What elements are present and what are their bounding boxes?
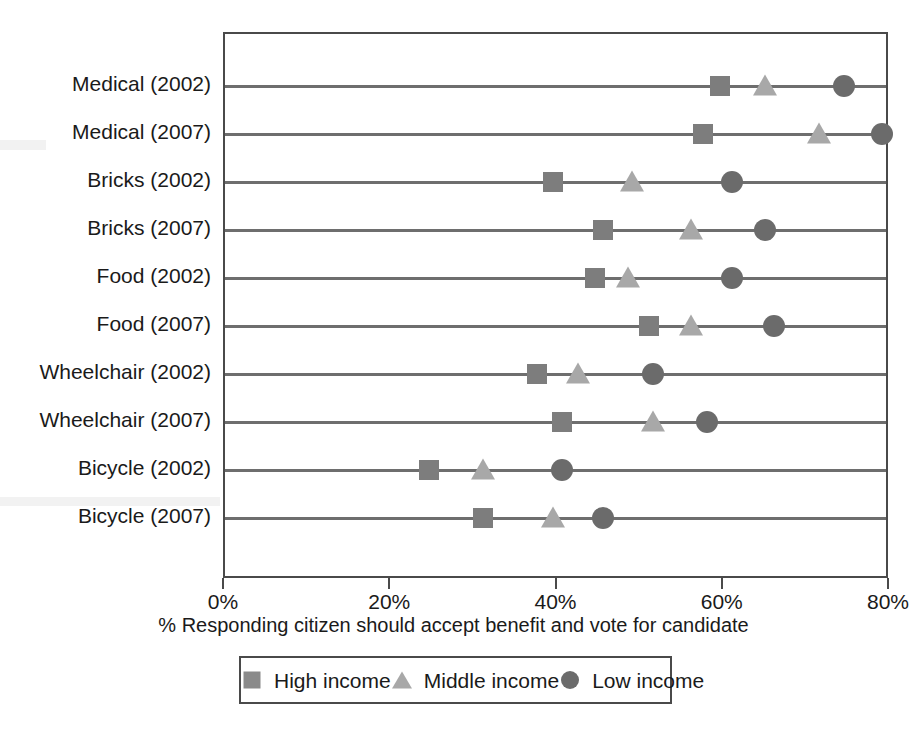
x-axis: 0%20%40%60%80% bbox=[223, 578, 888, 590]
x-axis-tick-label: 80% bbox=[867, 591, 909, 612]
data-point-triangle bbox=[541, 506, 565, 527]
x-axis-title: % Responding citizen should accept benef… bbox=[0, 614, 907, 636]
data-point-square bbox=[639, 316, 659, 336]
x-axis-tick-label: 40% bbox=[534, 591, 576, 612]
data-point-square bbox=[585, 268, 605, 288]
y-axis-label: Bricks (2007) bbox=[87, 217, 211, 238]
circle-marker-icon bbox=[559, 669, 581, 691]
data-point-triangle bbox=[807, 122, 831, 143]
row-baseline bbox=[225, 277, 886, 280]
y-axis-label: Wheelchair (2007) bbox=[39, 409, 211, 430]
data-point-circle bbox=[754, 219, 776, 241]
x-axis-tick bbox=[887, 578, 889, 589]
data-point-square bbox=[419, 460, 439, 480]
chart-legend: High incomeMiddle incomeLow income bbox=[239, 656, 672, 704]
legend-label: High income bbox=[274, 670, 391, 691]
x-axis-tick-label: 60% bbox=[701, 591, 743, 612]
data-point-triangle bbox=[616, 266, 640, 287]
row-baseline bbox=[225, 325, 886, 328]
x-axis-tick bbox=[721, 578, 723, 589]
legend-label: Middle income bbox=[424, 670, 559, 691]
y-axis-label: Medical (2002) bbox=[72, 73, 211, 94]
x-axis-tick bbox=[388, 578, 390, 589]
y-axis-label: Food (2002) bbox=[97, 265, 211, 286]
legend-label: Low income bbox=[592, 670, 704, 691]
data-point-triangle bbox=[566, 362, 590, 383]
data-point-square bbox=[593, 220, 613, 240]
x-axis-tick-label: 0% bbox=[208, 591, 238, 612]
y-axis-label: Bricks (2002) bbox=[87, 169, 211, 190]
data-point-circle bbox=[871, 123, 893, 145]
data-point-square bbox=[693, 124, 713, 144]
y-axis-label: Bicycle (2007) bbox=[78, 505, 211, 526]
row-baseline bbox=[225, 85, 886, 88]
data-point-triangle bbox=[641, 410, 665, 431]
data-point-triangle bbox=[471, 458, 495, 479]
data-point-circle bbox=[763, 315, 785, 337]
triangle-marker-icon bbox=[391, 669, 413, 691]
data-point-square bbox=[552, 412, 572, 432]
y-axis-label: Bicycle (2002) bbox=[78, 457, 211, 478]
square-marker-icon bbox=[241, 669, 263, 691]
data-point-triangle bbox=[620, 170, 644, 191]
data-point-triangle bbox=[679, 218, 703, 239]
legend-item[interactable]: Middle income bbox=[391, 669, 559, 691]
data-point-triangle bbox=[679, 314, 703, 335]
row-baseline bbox=[225, 133, 886, 136]
data-point-square bbox=[527, 364, 547, 384]
x-axis-tick bbox=[555, 578, 557, 589]
data-point-circle bbox=[642, 363, 664, 385]
data-point-circle bbox=[721, 267, 743, 289]
data-point-triangle bbox=[753, 74, 777, 95]
data-point-square bbox=[473, 508, 493, 528]
data-point-circle bbox=[721, 171, 743, 193]
y-axis-label: Medical (2007) bbox=[72, 121, 211, 142]
row-baseline bbox=[225, 229, 886, 232]
legend-item[interactable]: Low income bbox=[559, 669, 704, 691]
x-axis-tick bbox=[222, 578, 224, 589]
y-axis-label: Wheelchair (2002) bbox=[39, 361, 211, 382]
plot-area bbox=[223, 32, 888, 578]
data-point-circle bbox=[551, 459, 573, 481]
data-point-circle bbox=[833, 75, 855, 97]
data-point-circle bbox=[696, 411, 718, 433]
legend-item[interactable]: High income bbox=[241, 669, 391, 691]
data-point-square bbox=[710, 76, 730, 96]
scan-artifact bbox=[0, 140, 46, 150]
x-axis-tick-label: 20% bbox=[368, 591, 410, 612]
data-point-circle bbox=[592, 507, 614, 529]
y-axis-label: Food (2007) bbox=[97, 313, 211, 334]
row-baseline bbox=[225, 373, 886, 376]
data-point-square bbox=[543, 172, 563, 192]
